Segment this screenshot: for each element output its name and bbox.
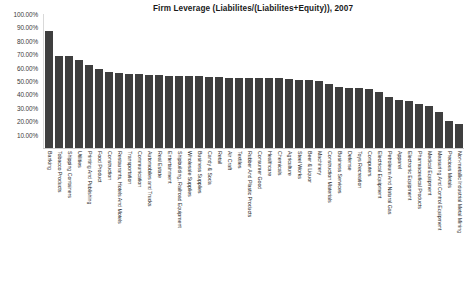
x-axis-category-label: Consumer Good <box>256 151 261 189</box>
bar[interactable] <box>255 78 262 148</box>
bar[interactable] <box>325 84 332 148</box>
x-label-slot: Consumer Good <box>254 150 264 292</box>
bar[interactable] <box>445 121 452 148</box>
bar-slot <box>54 14 64 148</box>
bar[interactable] <box>425 106 432 148</box>
bar-slot <box>254 14 264 148</box>
bar-slot <box>244 14 254 148</box>
bar[interactable] <box>265 78 272 148</box>
x-axis-category-label: Utilities <box>76 151 81 168</box>
bar[interactable] <box>295 80 302 148</box>
y-axis-tick-label: 80.00% <box>17 37 38 44</box>
x-label-slot: Construction Materials <box>324 150 334 292</box>
x-label-slot: Communication <box>134 150 144 292</box>
bar[interactable] <box>225 78 232 148</box>
x-axis-category-label: Food Product <box>96 151 101 182</box>
bar[interactable] <box>435 112 442 148</box>
bar[interactable] <box>105 72 112 148</box>
x-label-slot: Entertainment <box>164 150 174 292</box>
x-axis-category-label: Measuring And Control Equipment <box>436 151 441 230</box>
chart-container: Firm Leverage (Liabilites/(Liabilites+Eq… <box>0 0 472 294</box>
bar-slot <box>164 14 174 148</box>
bar-slot <box>454 14 464 148</box>
bar[interactable] <box>455 124 462 148</box>
bar-slot <box>404 14 414 148</box>
x-axis-category-label: Chemicals <box>276 151 281 175</box>
bar-slot <box>304 14 314 148</box>
bar[interactable] <box>305 80 312 148</box>
x-label-slot: Shipping Containers <box>64 150 74 292</box>
bar[interactable] <box>55 56 62 148</box>
bar-slot <box>314 14 324 148</box>
bar[interactable] <box>65 56 72 148</box>
bar[interactable] <box>205 77 212 148</box>
y-axis-tick-label: 50.00% <box>17 78 38 85</box>
x-axis-category-label: Electronic Equipment <box>406 151 411 200</box>
bar[interactable] <box>175 76 182 148</box>
bar[interactable] <box>275 78 282 148</box>
x-label-slot: Machinery <box>314 150 324 292</box>
x-label-slot: Business Services <box>334 150 344 292</box>
bar-series <box>44 14 464 148</box>
bar[interactable] <box>185 76 192 148</box>
bar[interactable] <box>355 88 362 148</box>
x-label-slot: Rubber And Plastic Products <box>244 150 254 292</box>
bar[interactable] <box>155 75 162 148</box>
bar[interactable] <box>345 88 352 148</box>
bar[interactable] <box>405 101 412 148</box>
bar[interactable] <box>135 74 142 148</box>
x-axis-category-label: Construction Materials <box>326 151 331 203</box>
x-label-slot: Apparel <box>394 150 404 292</box>
x-axis-category-label: Apparel <box>396 151 401 169</box>
x-label-slot: Real Estate <box>154 150 164 292</box>
bar-slot <box>394 14 404 148</box>
bar[interactable] <box>215 77 222 148</box>
bar-slot <box>294 14 304 148</box>
x-axis-category-label: Beer & Liquor <box>306 151 311 183</box>
bar-slot <box>134 14 144 148</box>
bar-slot <box>444 14 454 148</box>
bar[interactable] <box>235 78 242 148</box>
bar-slot <box>104 14 114 148</box>
x-label-slot: Air Craft <box>224 150 234 292</box>
bar[interactable] <box>395 100 402 148</box>
y-axis-tick-label: 60.00% <box>17 64 38 71</box>
x-label-slot: Retail <box>214 150 224 292</box>
bar[interactable] <box>145 75 152 148</box>
bar[interactable] <box>365 89 372 148</box>
x-label-slot: Beer & Liquor <box>304 150 314 292</box>
x-axis-category-label: Machinery <box>316 151 321 175</box>
x-label-slot: Candy & Soda <box>204 150 214 292</box>
x-axis-category-label: Air Craft <box>226 151 231 170</box>
bar[interactable] <box>115 73 122 148</box>
bar-slot <box>44 14 54 148</box>
bar[interactable] <box>125 74 132 148</box>
bar[interactable] <box>285 79 292 148</box>
y-axis-tick-label: 90.00% <box>17 24 38 31</box>
bar-slot <box>364 14 374 148</box>
bar[interactable] <box>45 31 52 148</box>
bar[interactable] <box>165 76 172 148</box>
x-label-slot: Toys Recreation <box>354 150 364 292</box>
x-axis-category-label: Restaurants, Hotels And Motels <box>116 151 121 224</box>
bar[interactable] <box>335 87 342 148</box>
x-axis-category-labels: BankingTobacco ProductsShipping Containe… <box>44 150 464 292</box>
bar-slot <box>74 14 84 148</box>
x-label-slot: Non-metallic Industrial Metal Mining <box>454 150 464 292</box>
y-axis-tick-label: 100.00% <box>13 11 38 18</box>
bar[interactable] <box>195 76 202 148</box>
bar[interactable] <box>375 92 382 148</box>
x-label-slot: Petroleum And Natural Gas <box>384 150 394 292</box>
bar[interactable] <box>415 104 422 148</box>
x-axis-category-label: Retail <box>216 151 221 164</box>
bar[interactable] <box>75 60 82 148</box>
bar[interactable] <box>315 81 322 148</box>
y-axis-ticks: 100.00%90.00%80.00%70.00%60.00%50.00%40.… <box>0 14 40 148</box>
bar[interactable] <box>85 65 92 148</box>
bar[interactable] <box>95 69 102 148</box>
bar[interactable] <box>385 97 392 148</box>
x-axis-category-label: Business Services <box>336 151 341 193</box>
bar-slot <box>214 14 224 148</box>
x-axis-category-label: Textiles <box>236 151 241 168</box>
bar[interactable] <box>245 78 252 148</box>
